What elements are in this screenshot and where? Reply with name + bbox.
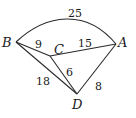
edge-weight-b-d: 18 xyxy=(36,75,50,88)
edge-weight-c-a: 15 xyxy=(78,37,92,50)
edge-weight-d-a: 8 xyxy=(95,80,102,93)
edge-b-a xyxy=(16,19,116,44)
edge-weight-b-a: 25 xyxy=(68,7,82,20)
edge-weight-b-c: 9 xyxy=(35,38,42,51)
node-label-a: A xyxy=(117,35,127,50)
node-label-d: D xyxy=(71,97,83,112)
edge-b-c xyxy=(16,42,50,56)
graph-diagram: 259156188 ABCD xyxy=(0,0,136,118)
node-labels-group: ABCD xyxy=(1,35,127,112)
edge-weight-c-d: 6 xyxy=(66,66,73,79)
edge-weights-group: 259156188 xyxy=(35,7,102,93)
node-label-b: B xyxy=(1,35,12,50)
node-label-c: C xyxy=(54,42,64,57)
